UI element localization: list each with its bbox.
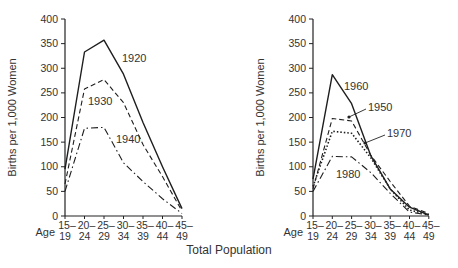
chart-1: 05010015020025030035040015–1920–2425–293… <box>6 13 193 243</box>
series-line-1960 <box>313 75 429 215</box>
series-label-1960: 1960 <box>344 80 368 92</box>
series-label-1920: 1920 <box>122 52 146 64</box>
series-line-1970 <box>313 131 429 214</box>
leader-line <box>349 109 366 117</box>
y-tick-label: 350 <box>40 37 58 49</box>
y-tick-label: 200 <box>288 111 306 123</box>
y-tick-label: 400 <box>288 13 306 25</box>
fertility-charts: 05010015020025030035040015–1920–2425–293… <box>0 0 458 268</box>
x-tick-label: 39 <box>384 230 396 242</box>
series-line-1920 <box>65 40 182 208</box>
y-tick-label: 100 <box>288 160 306 172</box>
leader-line <box>365 135 385 143</box>
y-tick-label: 150 <box>288 136 306 148</box>
chart-2: 05010015020025030035040015–1920–2425–293… <box>254 13 440 243</box>
y-tick-label: 200 <box>40 111 58 123</box>
x-axis-label: Age <box>35 226 55 238</box>
y-tick-label: 100 <box>40 160 58 172</box>
x-tick-label: 44 <box>157 230 169 242</box>
x-tick-label: 49 <box>423 230 435 242</box>
y-axis-label: Births per 1,000 Women <box>6 58 18 176</box>
x-tick-label: 24 <box>326 230 338 242</box>
y-tick-label: 250 <box>40 86 58 98</box>
chart-footer-title: Total Population <box>0 243 458 257</box>
x-tick-label: 49 <box>176 230 188 242</box>
x-tick-label: 24 <box>79 230 91 242</box>
y-tick-label: 300 <box>40 62 58 74</box>
series-label-1980: 1980 <box>336 168 360 180</box>
y-axis-label: Births per 1,000 Women <box>254 58 266 176</box>
x-tick-label: 19 <box>59 230 71 242</box>
x-tick-label: 34 <box>118 230 130 242</box>
x-tick-label: 29 <box>98 230 110 242</box>
y-tick-label: 300 <box>288 62 306 74</box>
series-label-1930: 1930 <box>88 95 112 107</box>
series-line-1930 <box>65 80 182 211</box>
x-tick-label: 44 <box>404 230 416 242</box>
y-tick-label: 50 <box>294 185 306 197</box>
series-label-1970: 1970 <box>387 127 411 139</box>
series-label-1950: 1950 <box>368 101 392 113</box>
x-tick-label: 34 <box>365 230 377 242</box>
y-tick-label: 250 <box>288 86 306 98</box>
x-tick-label: 39 <box>137 230 149 242</box>
y-tick-label: 400 <box>40 13 58 25</box>
y-tick-label: 350 <box>288 37 306 49</box>
x-axis-label: Age <box>283 226 303 238</box>
series-line-1980 <box>313 156 429 215</box>
x-tick-label: 29 <box>346 230 358 242</box>
y-tick-label: 150 <box>40 136 58 148</box>
x-tick-label: 19 <box>307 230 319 242</box>
series-label-1940: 1940 <box>116 133 140 145</box>
y-tick-label: 50 <box>46 185 58 197</box>
